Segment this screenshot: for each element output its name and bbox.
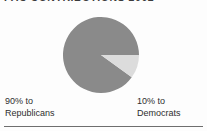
pie-svg xyxy=(63,17,139,93)
bottom-divider xyxy=(4,126,203,127)
pie-label-democrats: 10% to Democrats xyxy=(137,96,181,119)
pie-label-democrats-percent: 10% to xyxy=(137,96,181,108)
pie-chart-figure: PAC CONTRIBUTIONS 2002 90% to Republican… xyxy=(0,0,207,131)
pie-label-republicans-name: Republicans xyxy=(5,108,55,120)
pie-chart-graphic xyxy=(63,17,139,93)
pie-label-republicans-percent: 90% to xyxy=(5,96,55,108)
pie-label-republicans: 90% to Republicans xyxy=(5,96,55,119)
page-title: PAC CONTRIBUTIONS 2002 xyxy=(4,0,203,4)
pie-label-democrats-name: Democrats xyxy=(137,108,181,120)
